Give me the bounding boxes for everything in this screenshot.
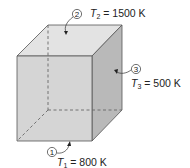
svg-text:2: 2 bbox=[75, 10, 80, 19]
svg-text:1: 1 bbox=[50, 148, 55, 157]
surface-1-arrow-icon bbox=[57, 145, 69, 153]
svg-text:T2 = 1500 K: T2 = 1500 K bbox=[90, 7, 146, 20]
surface-1-label: 1 T1 = 800 K bbox=[47, 141, 106, 168]
surface-3-label: 3 T3 = 500 K bbox=[114, 64, 181, 90]
svg-text:T1 = 800 K: T1 = 800 K bbox=[57, 156, 107, 168]
cube-diagram: 2 T2 = 1500 K 3 T3 = 500 K 1 T1 = 800 K bbox=[0, 0, 190, 168]
front-face bbox=[17, 56, 92, 141]
svg-text:T3 = 500 K: T3 = 500 K bbox=[131, 77, 181, 90]
svg-text:3: 3 bbox=[134, 65, 139, 74]
